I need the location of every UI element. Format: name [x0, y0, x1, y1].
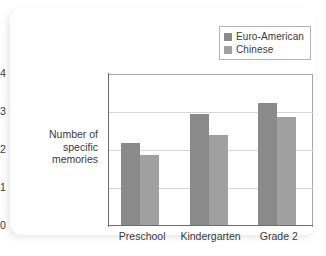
y-axis-tick-label: 2 [0, 143, 6, 155]
y-axis-tick-label: 1 [0, 181, 6, 193]
legend-label-chinese: Chinese [236, 44, 273, 55]
bar-euro-american [121, 143, 140, 225]
y-axis-title: Number of specific memories [24, 128, 98, 166]
y-axis-tick-label: 3 [0, 105, 6, 117]
y-axis-tick-label: 0 [0, 219, 6, 231]
bar-euro-american [258, 103, 277, 225]
legend-item-euro-american: Euro-American [224, 30, 304, 43]
legend-label-euro-american: Euro-American [236, 31, 304, 42]
chart-canvas: Euro-American Chinese Number of specific… [0, 0, 326, 256]
y-axis-tick-label: 4 [0, 67, 6, 79]
plot-area [108, 74, 313, 226]
y-axis-title-line-3: memories [24, 153, 98, 166]
x-axis-line [108, 225, 313, 226]
bar-chinese [209, 135, 228, 225]
y-axis-title-line-2: specific [24, 141, 98, 154]
legend-swatch-icon-euro-american [224, 33, 232, 41]
bar-euro-american [190, 114, 209, 225]
legend-item-chinese: Chinese [224, 43, 304, 56]
bar-chinese [140, 155, 159, 225]
gridline [109, 112, 313, 113]
legend-swatch-icon-chinese [224, 46, 232, 54]
y-axis-title-line-1: Number of [24, 128, 98, 141]
plot-border-top [108, 74, 313, 75]
chart-legend: Euro-American Chinese [219, 26, 311, 60]
x-axis-tick-label: Grade 2 [229, 230, 326, 242]
bar-chinese [277, 117, 296, 225]
figure-card: Euro-American Chinese Number of specific… [10, 8, 316, 235]
